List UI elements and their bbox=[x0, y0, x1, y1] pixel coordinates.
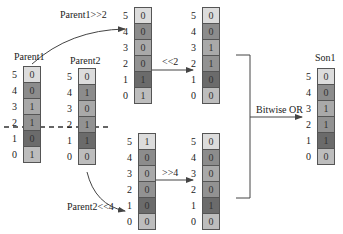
bit-index: 4 bbox=[12, 83, 17, 98]
bit-cell: 13 bbox=[202, 40, 220, 56]
bit-index: 2 bbox=[67, 117, 72, 132]
register-parent1-shr2: 050403021110 bbox=[134, 7, 152, 104]
bit-cell: 05 bbox=[202, 7, 220, 24]
bit-index: 0 bbox=[306, 149, 311, 164]
bit-cell: 05 bbox=[134, 7, 152, 24]
bit-index: 1 bbox=[67, 133, 72, 148]
bit-index: 1 bbox=[191, 198, 196, 213]
bit-cell: 05 bbox=[317, 68, 335, 85]
bit-index: 5 bbox=[127, 134, 132, 149]
bit-index: 4 bbox=[127, 150, 132, 165]
bit-index: 5 bbox=[12, 67, 17, 82]
bit-cell: 11 bbox=[317, 133, 335, 149]
bit-cell: 05 bbox=[202, 133, 220, 150]
bit-cell: 05 bbox=[78, 68, 96, 85]
bit-cell: 04 bbox=[202, 150, 220, 166]
bit-index: 3 bbox=[67, 101, 72, 116]
bit-cell: 01 bbox=[23, 131, 41, 147]
bit-cell: 00 bbox=[317, 149, 335, 165]
bit-index: 5 bbox=[123, 8, 128, 23]
register-parent1-shl2: 050413120100 bbox=[202, 7, 220, 104]
bit-cell: 13 bbox=[317, 101, 335, 117]
bit-cell: 01 bbox=[138, 198, 156, 214]
register-parent2-shl4: 150403020100 bbox=[138, 133, 156, 230]
bit-index: 2 bbox=[127, 182, 132, 197]
bit-index: 0 bbox=[127, 214, 132, 229]
bit-cell: 11 bbox=[202, 198, 220, 214]
bit-index: 2 bbox=[12, 115, 17, 130]
bit-cell: 03 bbox=[202, 166, 220, 182]
bit-index: 3 bbox=[306, 101, 311, 116]
bit-index: 3 bbox=[191, 40, 196, 55]
bit-cell: 02 bbox=[138, 182, 156, 198]
bit-index: 0 bbox=[67, 149, 72, 164]
parent1-title: Parent1 bbox=[14, 51, 45, 62]
bit-index: 2 bbox=[191, 182, 196, 197]
bitwise-or-label: Bitwise OR bbox=[256, 104, 303, 115]
bit-index: 3 bbox=[12, 99, 17, 114]
shift-left-2-label: <<2 bbox=[162, 56, 178, 67]
register-parent1: 050413120110 bbox=[23, 66, 41, 163]
bit-index: 3 bbox=[191, 166, 196, 181]
bit-index: 1 bbox=[12, 131, 17, 146]
bit-index: 2 bbox=[191, 56, 196, 71]
bit-cell: 04 bbox=[138, 150, 156, 166]
bit-cell: 12 bbox=[23, 115, 41, 131]
bit-cell: 04 bbox=[202, 24, 220, 40]
bit-cell: 03 bbox=[78, 101, 96, 117]
connectors bbox=[0, 0, 343, 234]
bit-cell: 03 bbox=[138, 166, 156, 182]
bit-cell: 00 bbox=[202, 88, 220, 104]
bit-index: 0 bbox=[12, 147, 17, 162]
bit-index: 5 bbox=[306, 69, 311, 84]
register-parent2: 051403121100 bbox=[78, 68, 96, 165]
bit-cell: 00 bbox=[138, 214, 156, 230]
bit-index: 4 bbox=[306, 85, 311, 100]
bit-cell: 15 bbox=[138, 133, 156, 150]
bit-index: 1 bbox=[306, 133, 311, 148]
parent2-title: Parent2 bbox=[70, 55, 101, 66]
bit-cell: 12 bbox=[317, 117, 335, 133]
bit-index: 0 bbox=[191, 88, 196, 103]
bit-index: 1 bbox=[127, 198, 132, 213]
bit-index: 4 bbox=[67, 85, 72, 100]
bit-cell: 12 bbox=[202, 56, 220, 72]
bit-cell: 04 bbox=[23, 83, 41, 99]
bit-cell: 02 bbox=[134, 56, 152, 72]
bit-index: 2 bbox=[123, 56, 128, 71]
bit-index: 0 bbox=[123, 88, 128, 103]
bit-index: 1 bbox=[191, 72, 196, 87]
bit-cell: 03 bbox=[134, 40, 152, 56]
bit-cell: 04 bbox=[134, 24, 152, 40]
bit-index: 3 bbox=[127, 166, 132, 181]
bit-index: 4 bbox=[123, 24, 128, 39]
bit-cell: 10 bbox=[23, 147, 41, 163]
bit-cell: 00 bbox=[78, 149, 96, 165]
register-parent2-shr4: 050403021100 bbox=[202, 133, 220, 230]
bit-cell: 14 bbox=[78, 85, 96, 101]
bit-cell: 01 bbox=[202, 72, 220, 88]
bit-cell: 10 bbox=[134, 88, 152, 104]
bit-index: 1 bbox=[123, 72, 128, 87]
bit-index: 2 bbox=[306, 117, 311, 132]
bit-cell: 02 bbox=[202, 182, 220, 198]
bit-index: 3 bbox=[123, 40, 128, 55]
bit-index: 5 bbox=[191, 8, 196, 23]
son1-title: Son1 bbox=[315, 52, 336, 63]
bit-index: 5 bbox=[67, 69, 72, 84]
bit-index: 0 bbox=[191, 214, 196, 229]
bit-cell: 04 bbox=[317, 85, 335, 101]
bit-index: 4 bbox=[191, 24, 196, 39]
bit-cell: 12 bbox=[78, 117, 96, 133]
register-son1: 050413121100 bbox=[317, 68, 335, 165]
bit-index: 4 bbox=[191, 150, 196, 165]
parent2-shift-label: Parent2<<4 bbox=[67, 201, 114, 212]
bit-cell: 11 bbox=[134, 72, 152, 88]
bit-cell: 00 bbox=[202, 214, 220, 230]
parent1-shift-label: Parent1>>2 bbox=[60, 9, 107, 20]
bit-cell: 13 bbox=[23, 99, 41, 115]
bit-cell: 11 bbox=[78, 133, 96, 149]
bit-index: 5 bbox=[191, 134, 196, 149]
bit-cell: 05 bbox=[23, 66, 41, 83]
shift-right-4-label: >>4 bbox=[162, 167, 178, 178]
